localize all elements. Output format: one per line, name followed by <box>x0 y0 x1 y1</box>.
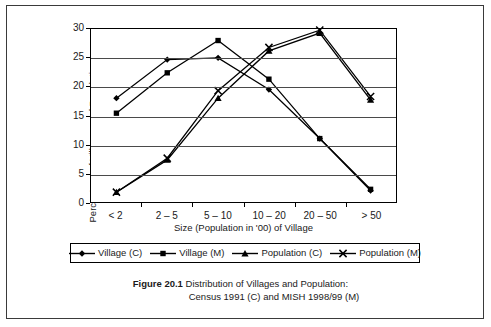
series-line <box>116 33 370 192</box>
legend-marker-triangle-icon <box>232 249 258 258</box>
data-point-square-marker <box>317 136 322 141</box>
gridline <box>91 117 396 118</box>
y-tick-label: 0 <box>78 198 84 208</box>
figure-frame: Percentage of Villages and Population 05… <box>6 5 484 319</box>
legend-marker-cross-icon <box>330 249 356 258</box>
series-canvas <box>91 29 396 202</box>
chart-container: Percentage of Villages and Population 05… <box>7 6 485 236</box>
gridline <box>91 146 396 147</box>
y-tick-label: 30 <box>73 23 84 33</box>
data-point-square-marker <box>266 77 271 82</box>
x-tick-label: < 2 <box>108 210 122 221</box>
series-population-c <box>113 29 374 195</box>
legend-item-village-m: Village (M) <box>150 248 224 258</box>
y-axis: Percentage of Villages and Population 05… <box>62 28 90 203</box>
y-tick-label: 15 <box>73 111 84 121</box>
legend-item-population-m: Population (M) <box>330 248 421 258</box>
x-tick-mark <box>192 203 193 207</box>
caption-line-1: Distribution of Villages and Population: <box>186 278 348 289</box>
figure-caption: Figure 20.1 Distribution of Villages and… <box>7 278 485 303</box>
legend-item-population-c: Population (C) <box>232 248 322 258</box>
data-point-square-marker <box>165 70 170 75</box>
legend-item-label: Village (M) <box>179 248 224 258</box>
gridline <box>91 58 396 59</box>
data-point-square-marker <box>114 111 119 116</box>
x-tick-mark <box>346 203 347 207</box>
legend-item-label: Village (C) <box>98 248 142 258</box>
series-population-m <box>113 27 374 196</box>
x-tick-label: 5 – 10 <box>204 210 232 221</box>
plot-area <box>90 28 397 203</box>
gridline <box>91 87 396 88</box>
y-tick-label: 5 <box>78 169 84 179</box>
x-tick-mark <box>141 203 142 207</box>
x-tick-mark <box>295 203 296 207</box>
gridline <box>91 175 396 176</box>
legend-item-label: Population (M) <box>359 248 421 258</box>
figure-number: Figure 20.1 <box>133 278 183 289</box>
x-axis-title: Size (Population in '00) of Village <box>90 222 397 233</box>
y-tick-label: 10 <box>73 140 84 150</box>
x-tick-label: 20 – 50 <box>304 210 337 221</box>
legend-item-village-c: Village (C) <box>69 248 142 258</box>
series-village-c <box>113 55 374 194</box>
legend-marker-square-icon <box>150 249 176 258</box>
data-point-square-marker <box>215 38 220 43</box>
y-tick-label: 20 <box>73 81 84 91</box>
legend-item-label: Population (C) <box>261 248 322 258</box>
y-tick-label: 25 <box>73 52 84 62</box>
caption-line-2: Census 1991 (C) and MISH 1998/99 (M) <box>133 291 360 304</box>
x-tick-label: 10 – 20 <box>252 210 285 221</box>
x-tick-mark <box>244 203 245 207</box>
data-point-square-marker <box>368 187 373 192</box>
legend-marker-diamond-icon <box>69 249 95 258</box>
x-tick-label: > 50 <box>362 210 382 221</box>
series-line <box>116 58 370 191</box>
x-tick-label: 2 – 5 <box>156 210 178 221</box>
chart-legend: Village (C)Village (M)Population (C)Popu… <box>70 243 420 263</box>
